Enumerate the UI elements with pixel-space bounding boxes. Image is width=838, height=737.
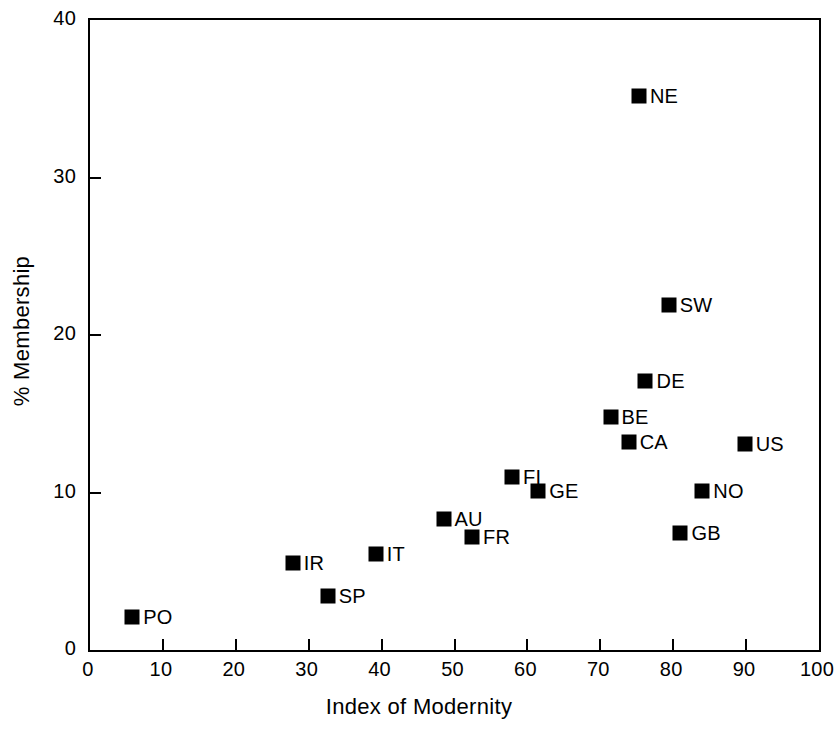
data-point-ge[interactable] [531, 483, 546, 498]
y-tick-label: 30 [53, 164, 76, 187]
data-point-label-ne: NE [650, 84, 678, 107]
data-point-fi[interactable] [505, 469, 520, 484]
data-point-sw[interactable] [661, 298, 676, 313]
data-point-label-de: DE [656, 369, 684, 392]
x-axis-tick [672, 639, 674, 650]
data-point-gb[interactable] [673, 526, 688, 541]
data-point-us[interactable] [737, 436, 752, 451]
data-point-label-us: US [756, 432, 784, 455]
data-point-ne[interactable] [631, 88, 646, 103]
data-point-it[interactable] [368, 546, 383, 561]
x-axis-tick [454, 639, 456, 650]
data-point-de[interactable] [638, 373, 653, 388]
x-axis-tick [745, 639, 747, 650]
data-point-po[interactable] [125, 609, 140, 624]
x-tick-label: 50 [441, 658, 464, 681]
data-point-label-sp: SP [339, 585, 366, 608]
x-tick-label: 40 [368, 658, 391, 681]
data-point-label-no: NO [713, 479, 743, 502]
data-point-label-ir: IR [304, 552, 324, 575]
plot-frame: POIRSPITAUFRFIGEBECANESWDEGBNOUS [88, 18, 821, 652]
x-axis-tick [162, 639, 164, 650]
data-point-label-ca: CA [640, 431, 668, 454]
data-point-label-be: BE [622, 405, 649, 428]
data-point-label-fr: FR [483, 525, 510, 548]
x-tick-label: 90 [733, 658, 756, 681]
data-point-label-au: AU [455, 508, 483, 531]
data-point-fr[interactable] [464, 529, 479, 544]
data-point-sp[interactable] [320, 589, 335, 604]
data-point-label-gb: GB [691, 522, 720, 545]
x-tick-label: 30 [295, 658, 318, 681]
data-point-be[interactable] [603, 409, 618, 424]
y-axis-title: % Membership [9, 201, 35, 461]
data-point-label-sw: SW [680, 294, 713, 317]
data-point-label-it: IT [387, 542, 405, 565]
y-axis-tick [90, 177, 101, 179]
data-point-label-po: PO [143, 605, 172, 628]
x-tick-label: 60 [514, 658, 537, 681]
x-axis-tick [308, 639, 310, 650]
y-tick-label: 20 [53, 322, 76, 345]
y-axis-tick [90, 334, 101, 336]
x-tick-label: 70 [587, 658, 610, 681]
chart-page: 010203040 POIRSPITAUFRFIGEBECANESWDEGBNO… [0, 0, 838, 737]
x-tick-label: 20 [222, 658, 245, 681]
y-tick-label: 10 [53, 479, 76, 502]
x-tick-label: 10 [150, 658, 173, 681]
x-tick-label: 0 [82, 658, 93, 681]
data-point-au[interactable] [436, 512, 451, 527]
plot-area: POIRSPITAUFRFIGEBECANESWDEGBNOUS [90, 20, 819, 650]
x-axis-tick [235, 639, 237, 650]
data-point-ir[interactable] [285, 556, 300, 571]
x-axis-title: Index of Modernity [0, 694, 838, 720]
y-tick-label: 0 [65, 637, 76, 660]
x-axis-tick [381, 639, 383, 650]
y-tick-label: 40 [53, 7, 76, 30]
data-point-ca[interactable] [621, 435, 636, 450]
x-axis-tick [599, 639, 601, 650]
y-axis-tick [90, 492, 101, 494]
data-point-label-ge: GE [549, 479, 578, 502]
x-axis-tick [526, 639, 528, 650]
data-point-no[interactable] [695, 483, 710, 498]
x-tick-label: 80 [660, 658, 683, 681]
x-tick-label: 100 [800, 658, 834, 681]
